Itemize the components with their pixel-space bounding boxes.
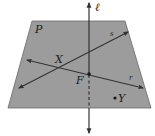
line-s-label: s xyxy=(110,30,114,38)
geometry-diagram: P ℓ s r X F Y xyxy=(0,0,155,136)
point-y xyxy=(113,96,116,99)
point-f xyxy=(87,72,91,76)
plane-p xyxy=(8,21,151,108)
point-f-label: F xyxy=(75,74,84,87)
point-x-label: X xyxy=(54,53,64,66)
line-l-label: ℓ xyxy=(95,1,100,14)
plane-p-label: P xyxy=(34,23,43,36)
